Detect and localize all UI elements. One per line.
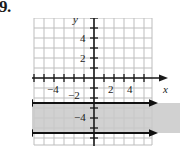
x-tick-label-4: 4 bbox=[127, 84, 133, 95]
x-tick-label-neg2: −2 bbox=[68, 90, 80, 101]
y-tick-label-2: 2 bbox=[80, 53, 86, 64]
coordinate-graph bbox=[32, 18, 152, 145]
x-axis-label: x bbox=[163, 84, 168, 95]
x-axis bbox=[32, 74, 168, 82]
shaded-solution-region bbox=[32, 103, 180, 133]
problem-number: 9. bbox=[0, 0, 11, 15]
y-tick-label-4: 4 bbox=[80, 33, 86, 44]
y-axis-label: y bbox=[73, 14, 78, 25]
x-tick-label-2: 2 bbox=[108, 84, 114, 95]
y-tick-label-neg4: −4 bbox=[74, 112, 86, 123]
x-tick-label-neg4: −4 bbox=[47, 84, 59, 95]
